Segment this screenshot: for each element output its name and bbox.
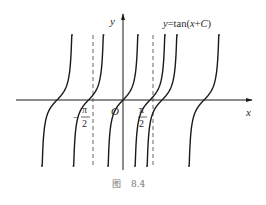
neg-half-pi-denominator: 2	[82, 118, 87, 129]
neg-sign: −	[73, 112, 79, 123]
pos-half-pi-numerator: π	[139, 104, 144, 115]
x-axis-label: x	[245, 106, 251, 118]
pos-half-pi-denominator: 2	[139, 118, 144, 129]
eq-close: )	[208, 18, 212, 30]
y-axis-label: y	[109, 15, 115, 27]
equation-label: y=tan(x+C)	[162, 18, 212, 30]
origin-label: O	[111, 105, 119, 117]
neg-half-pi-numerator: π	[82, 104, 87, 115]
eq-tan: =tan(	[168, 18, 191, 30]
figure-caption-prefix: 图	[112, 179, 121, 189]
figure-caption-number: 8.4	[131, 179, 146, 189]
tan-family-figure: y x O y=tan(x+C) − π 2 π 2 图 8.4	[0, 0, 266, 205]
